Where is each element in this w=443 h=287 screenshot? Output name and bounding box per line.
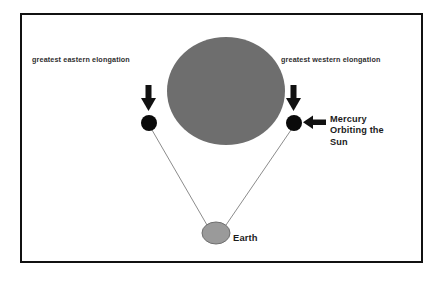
mercury-east-dot — [141, 115, 157, 131]
label-earth: Earth — [233, 232, 258, 243]
label-greatest-eastern-elongation: greatest eastern elongation — [32, 55, 130, 64]
arrow-down-west-icon — [286, 85, 301, 111]
earth-ellipse — [202, 222, 230, 244]
diagram-canvas: greatest eastern elongation greatest wes… — [0, 0, 443, 287]
arrow-left-mercury-icon — [303, 116, 326, 130]
label-greatest-western-elongation: greatest western elongation — [281, 55, 381, 64]
mercury-west-dot — [286, 115, 302, 131]
sun-ellipse — [167, 37, 285, 145]
label-mercury-orbiting-the-sun: Mercury Orbiting the Sun — [330, 114, 394, 148]
arrow-down-east-icon — [141, 85, 156, 111]
sight-line-east — [152, 130, 207, 225]
